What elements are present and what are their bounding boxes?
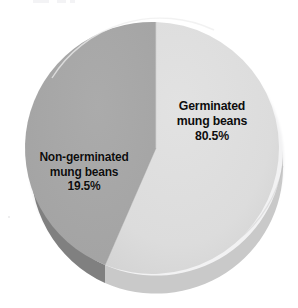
slice-label-germinated-line2: mung beans [166,114,258,129]
scan-artifact-mark [33,0,49,3]
slice-label-nongerminated-line2: mung beans [28,165,140,180]
scan-artifact-speck [8,216,10,218]
slice-label-germinated-line1: Germinated [166,99,258,114]
slice-value-germinated: 80.5% [166,129,258,144]
slice-label-germinated: Germinated mung beans 80.5% [166,99,258,144]
pie-chart-figure: Germinated mung beans 80.5% Non-germinat… [0,0,298,308]
scan-artifact-mark [70,0,75,3]
slice-label-nongerminated-line1: Non-germinated [28,150,140,165]
slice-label-nongerminated: Non-germinated mung beans 19.5% [28,150,140,194]
slice-value-nongerminated: 19.5% [28,179,140,194]
scan-artifact-mark [57,0,66,3]
